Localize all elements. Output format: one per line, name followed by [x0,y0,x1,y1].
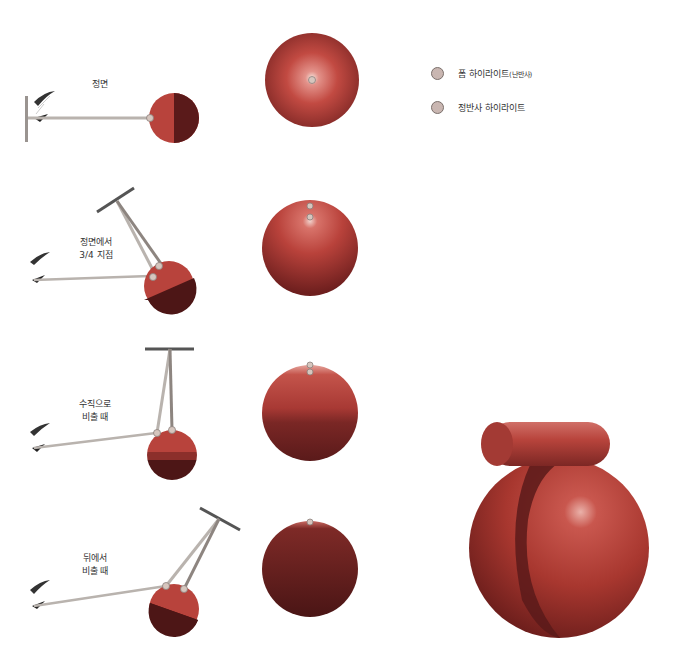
cylinder-end [481,422,513,466]
shaded-sphere-vertical [262,365,358,461]
specular-marker [307,203,313,209]
legend-marker-icon [431,67,444,80]
light-ray [34,586,166,606]
legend-label: 정반사 하이라이트 [458,101,525,114]
specular-marker [307,519,313,525]
row-label-vertical: 수직으로 비출 때 [70,398,120,424]
label-line-2: 비출 때 [70,565,120,578]
shaded-sphere-back [262,521,358,617]
legend-item-form-highlight: 폼 하이라이트 (난반사) [431,67,532,80]
specular-marker [307,362,313,368]
reflector [200,508,240,530]
legend-label: 폼 하이라이트 [458,67,509,80]
sphere-with-cylinder [469,422,649,638]
wall [25,96,28,142]
highlight-marker [147,115,154,122]
large-sphere [469,458,649,638]
specular-marker [309,77,316,84]
legend-item-specular-highlight: 정반사 하이라이트 [431,101,525,114]
light-ray [34,276,150,280]
row-label-front: 정면 [80,78,120,91]
label-line-2: 비출 때 [70,411,120,424]
row-label-three-quarter: 정면에서 3/4 지점 [66,236,126,262]
label-line-1: 정면 [80,78,120,91]
form-highlight-marker [307,369,313,375]
label-line-1: 수직으로 [70,398,120,411]
label-line-1: 정면에서 [66,236,126,249]
label-line-2: 3/4 지점 [66,249,126,262]
legend-marker-icon [431,101,444,114]
reflector [97,188,134,212]
row-front [25,33,359,143]
form-highlight-marker [307,214,313,220]
row-label-back: 뒤에서 비출 때 [70,552,120,578]
label-line-1: 뒤에서 [70,552,120,565]
legend-suffix: (난반사) [509,69,532,79]
light-ray [34,433,156,448]
